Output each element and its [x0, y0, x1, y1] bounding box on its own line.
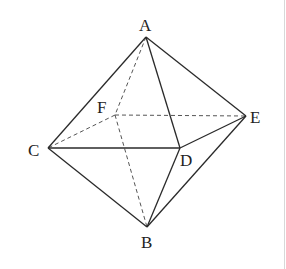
edge-AE: [146, 37, 246, 116]
edge-DB: [147, 148, 180, 227]
edge-DE: [180, 116, 246, 148]
edge-AC: [48, 37, 146, 148]
vertex-label-F: F: [97, 98, 106, 117]
edge-FC: [48, 115, 115, 148]
vertex-label-D: D: [180, 151, 192, 170]
vertex-label-B: B: [141, 233, 152, 252]
diagram-svg: A F E C D B: [0, 0, 286, 269]
vertex-label-E: E: [250, 108, 260, 127]
edge-AF: [115, 37, 146, 115]
edge-FE: [115, 115, 246, 116]
edge-EB: [147, 116, 246, 227]
edge-FB: [115, 115, 147, 227]
edge-CB: [48, 148, 147, 227]
edge-AD: [146, 37, 180, 148]
vertex-label-C: C: [28, 141, 39, 160]
octahedron-diagram: A F E C D B: [0, 0, 286, 269]
vertex-label-A: A: [139, 16, 152, 35]
